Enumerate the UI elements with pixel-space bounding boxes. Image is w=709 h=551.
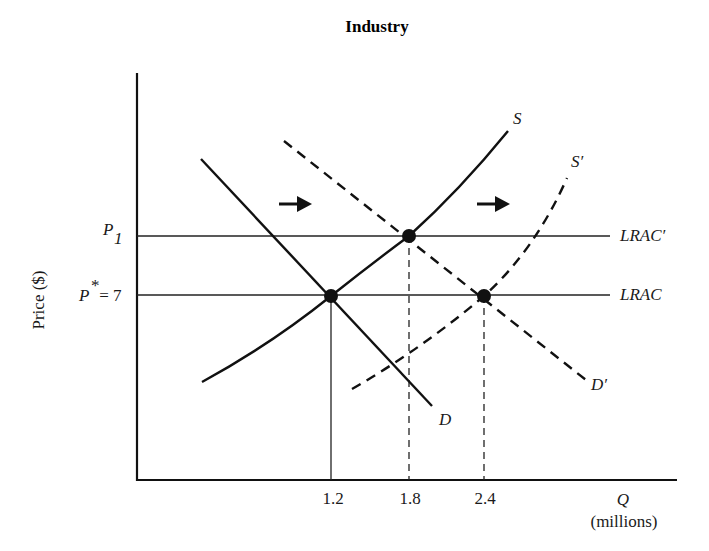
demand-curve-d [201, 159, 432, 406]
svg-text:P: P [102, 220, 113, 239]
demand-d-label: D [438, 410, 452, 429]
supply-s-label: S [513, 109, 522, 128]
x-axis-unit: (millions) [590, 512, 657, 531]
demand-shift-arrow-icon [279, 196, 312, 212]
equilibrium-point-short-run [402, 229, 416, 243]
supply-curve-s [202, 131, 508, 382]
x-tick-1.2: 1.2 [322, 489, 343, 508]
equilibrium-point-initial [324, 289, 338, 303]
svg-text:1: 1 [114, 229, 123, 248]
equilibrium-point-long-run [477, 289, 491, 303]
svg-text:P: P [78, 286, 89, 305]
supply-s-prime-label: S′ [571, 152, 584, 171]
x-tick-1.8: 1.8 [399, 489, 420, 508]
supply-shift-arrow-icon [477, 196, 510, 212]
y-tick-pstar: P * = 7 [78, 276, 122, 305]
supply-curve-s-prime [352, 178, 567, 389]
svg-text:= 7: = 7 [95, 286, 122, 305]
y-axis-label: Price ($) [29, 270, 48, 329]
chart-title: Industry [345, 17, 409, 36]
lrac-label: LRAC [619, 285, 662, 304]
y-tick-p1: P 1 [102, 220, 123, 248]
demand-curve-d-prime [284, 141, 586, 380]
lrac-prime-label: LRAC′ [619, 226, 666, 245]
x-axis-label: Q [617, 490, 629, 509]
industry-chart: Industry Price ($) P 1 P * = 7 LRAC′ LRA… [0, 0, 709, 551]
x-tick-2.4: 2.4 [474, 489, 496, 508]
demand-d-prime-label: D′ [590, 375, 607, 394]
